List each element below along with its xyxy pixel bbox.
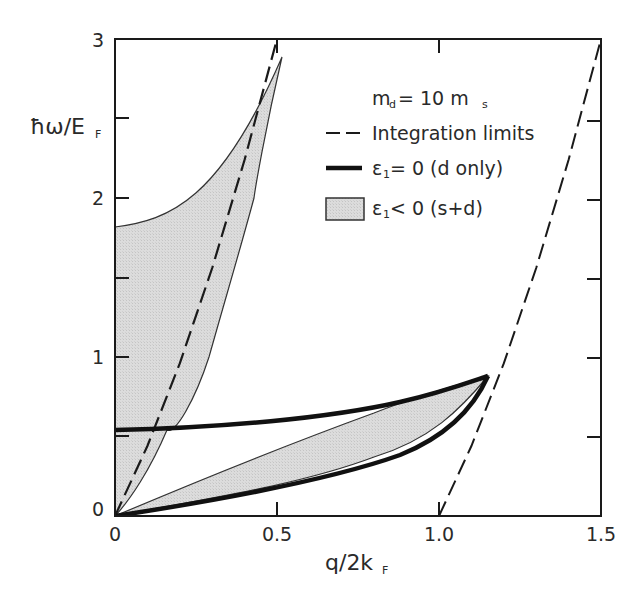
y-tick-label-2: 2 <box>92 187 104 209</box>
shaded-region-a <box>115 57 282 516</box>
svg-text:Integration limits: Integration limits <box>372 122 534 144</box>
x-axis-title: q/2k F <box>325 550 388 577</box>
svg-text:q/2k: q/2k <box>325 550 373 575</box>
y-ticks-right <box>587 121 601 437</box>
svg-text:1: 1 <box>383 208 390 221</box>
svg-text:< 0 (s+d): < 0 (s+d) <box>390 197 483 219</box>
svg-text:m: m <box>372 87 391 109</box>
y-tick-label-1: 1 <box>92 346 104 368</box>
x-tick-label-1.0: 1.0 <box>424 523 454 545</box>
svg-text:F: F <box>382 564 388 577</box>
svg-text:ħω/E: ħω/E <box>30 114 85 139</box>
plot-area <box>115 39 601 516</box>
integration-limit-lower <box>439 39 601 516</box>
svg-text:= 10 m: = 10 m <box>398 87 469 109</box>
x-tick-label-1.5: 1.5 <box>586 523 616 545</box>
x-tick-label-0.5: 0.5 <box>262 523 292 545</box>
legend-item-shaded: ε 1 < 0 (s+d) <box>326 197 483 221</box>
svg-text:1: 1 <box>383 168 390 181</box>
svg-text:ε: ε <box>372 157 382 179</box>
x-tick-label-0: 0 <box>109 523 121 545</box>
legend: Integration limits ε 1 = 0 (d only) ε 1 … <box>326 122 534 221</box>
svg-text:F: F <box>95 128 101 141</box>
legend-item-thick: ε 1 = 0 (d only) <box>326 157 503 181</box>
legend-item-dashed: Integration limits <box>326 122 534 144</box>
y-tick-label-0: 0 <box>92 498 104 520</box>
svg-text:= 0 (d only): = 0 (d only) <box>390 157 503 179</box>
svg-text:s: s <box>482 98 488 111</box>
y-axis-title: ħω/E F <box>30 114 101 141</box>
svg-text:ε: ε <box>372 197 382 219</box>
shaded-swatch-icon <box>326 198 364 220</box>
svg-text:d: d <box>389 98 396 111</box>
mass-ratio-annotation: m d = 10 m s <box>372 87 488 111</box>
chart-figure: 3 2 1 0 0 0.5 1.0 1.5 ħω/E F q/2k F m d … <box>0 0 627 591</box>
y-tick-label-3: 3 <box>92 29 104 51</box>
